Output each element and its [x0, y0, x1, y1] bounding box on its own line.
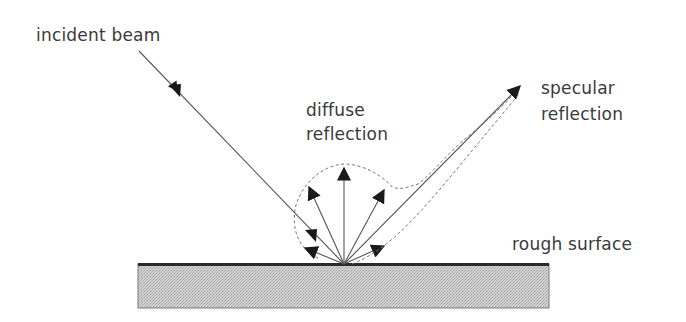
diffuse-reflection-label-line1: diffuse [306, 100, 365, 121]
incident-beam-ray [139, 51, 344, 264]
specular-ray [344, 86, 520, 264]
rough-surface-label: rough surface [512, 234, 632, 255]
rough-surface-slab [138, 264, 549, 308]
specular-reflection-label-line1: specular [541, 78, 615, 99]
diffuse-rays [305, 168, 384, 264]
diagram-canvas [0, 0, 686, 322]
incident-beam-label: incident beam [36, 25, 161, 46]
specular-reflection-label-line2: reflection [541, 104, 623, 125]
diffuse-reflection-label-line2: reflection [306, 124, 388, 145]
